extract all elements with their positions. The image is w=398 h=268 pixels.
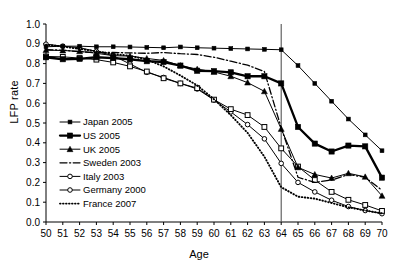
legend-item[interactable]: Germany 2000 <box>60 184 146 195</box>
data-point-marker <box>43 55 48 60</box>
chart-legend: Japan 2005US 2005UK 2005Sweden 2003Italy… <box>60 116 146 209</box>
data-point-marker <box>279 146 284 151</box>
data-point-marker <box>313 190 318 195</box>
legend-item[interactable]: UK 2005 <box>60 144 120 155</box>
legend-label: France 2007 <box>83 198 136 209</box>
data-point-marker <box>68 174 73 179</box>
data-point-marker <box>246 47 250 51</box>
chart-plot: 0.00.10.20.30.40.50.60.70.80.91.05051525… <box>0 0 398 268</box>
data-point-marker <box>245 113 250 118</box>
x-tick-label: 57 <box>158 228 170 239</box>
data-point-marker <box>77 56 82 61</box>
data-point-marker <box>178 81 183 86</box>
data-point-marker <box>263 47 267 51</box>
data-point-marker <box>296 180 301 185</box>
x-tick-label: 60 <box>208 228 220 239</box>
x-tick-label: 55 <box>124 228 136 239</box>
data-point-marker <box>345 170 351 175</box>
y-tick-label: 0.0 <box>26 217 40 228</box>
data-point-marker <box>111 45 115 49</box>
data-point-marker <box>347 117 351 121</box>
data-point-marker <box>179 45 183 49</box>
data-point-marker <box>228 70 233 75</box>
x-axis-title: Age <box>0 248 398 260</box>
x-tick-label: 53 <box>91 228 103 239</box>
x-tick-label: 63 <box>259 228 271 239</box>
x-tick-label: 59 <box>192 228 204 239</box>
x-tick-label: 67 <box>326 228 338 239</box>
data-point-marker <box>128 64 133 69</box>
data-point-marker <box>211 69 216 74</box>
y-tick-label: 0.5 <box>26 118 40 129</box>
data-point-marker <box>262 137 267 142</box>
data-point-marker <box>295 124 300 129</box>
legend-label: Japan 2005 <box>83 116 133 127</box>
y-tick-label: 0.3 <box>26 157 40 168</box>
x-tick-label: 56 <box>141 228 153 239</box>
data-point-marker <box>161 76 166 81</box>
legend-label: Italy 2003 <box>83 171 124 182</box>
y-tick-label: 0.9 <box>26 38 40 49</box>
data-point-marker <box>78 44 82 48</box>
data-point-marker <box>161 59 166 64</box>
data-point-marker <box>346 143 351 148</box>
x-tick-label: 52 <box>74 228 86 239</box>
legend-label: Sweden 2003 <box>83 157 141 168</box>
legend-item[interactable]: France 2007 <box>60 198 136 209</box>
data-point-marker <box>245 122 250 127</box>
legend-item[interactable]: Sweden 2003 <box>60 157 141 168</box>
y-axis-title: LFP rate <box>8 62 20 142</box>
x-tick-label: 70 <box>376 228 388 239</box>
data-point-marker <box>262 125 267 130</box>
data-point-marker <box>346 197 351 202</box>
data-point-marker <box>329 190 334 195</box>
y-tick-label: 0.8 <box>26 58 40 69</box>
data-point-marker <box>68 120 72 124</box>
data-point-marker <box>67 133 72 138</box>
y-tick-label: 0.2 <box>26 177 40 188</box>
legend-label: US 2005 <box>83 130 120 141</box>
data-point-marker <box>94 55 99 60</box>
x-tick-label: 69 <box>360 228 372 239</box>
data-point-marker <box>127 57 132 62</box>
data-point-marker <box>111 55 116 60</box>
data-point-marker <box>278 126 284 131</box>
x-tick-label: 65 <box>292 228 304 239</box>
data-point-marker <box>363 203 368 208</box>
data-point-marker <box>296 64 300 68</box>
data-point-marker <box>178 63 183 68</box>
data-point-marker <box>68 188 73 193</box>
x-tick-label: 62 <box>242 228 254 239</box>
data-point-marker <box>363 144 368 149</box>
x-tick-label: 58 <box>175 228 187 239</box>
y-tick-label: 0.7 <box>26 78 40 89</box>
data-point-marker <box>128 45 132 49</box>
data-point-marker <box>329 198 334 203</box>
legend-item[interactable]: Italy 2003 <box>60 171 124 182</box>
data-point-marker <box>312 141 317 146</box>
data-point-marker <box>279 161 284 166</box>
data-point-marker <box>330 99 334 103</box>
data-point-marker <box>380 149 384 153</box>
data-point-marker <box>279 81 284 86</box>
data-point-marker <box>228 107 233 112</box>
legend-item[interactable]: Japan 2005 <box>60 116 133 127</box>
data-point-marker <box>145 45 149 49</box>
y-tick-label: 0.1 <box>26 197 40 208</box>
legend-item[interactable]: US 2005 <box>60 130 120 141</box>
data-point-marker <box>229 47 233 51</box>
data-point-marker <box>144 69 149 74</box>
x-tick-label: 51 <box>57 228 69 239</box>
data-point-marker <box>245 74 250 79</box>
x-tick-label: 61 <box>225 228 237 239</box>
y-tick-label: 0.4 <box>26 137 40 148</box>
data-point-marker <box>329 149 334 154</box>
data-point-marker <box>60 57 65 62</box>
data-point-marker <box>312 171 318 176</box>
legend-label: Germany 2000 <box>83 184 146 195</box>
data-point-marker <box>379 175 384 180</box>
data-point-marker <box>363 133 367 137</box>
data-point-marker <box>279 48 283 52</box>
data-point-marker <box>144 59 149 64</box>
x-tick-label: 50 <box>40 228 52 239</box>
